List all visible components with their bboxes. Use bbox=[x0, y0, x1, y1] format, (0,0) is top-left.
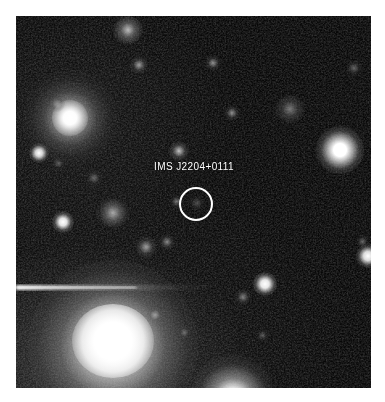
target-label: IMS J2204+0111 bbox=[154, 161, 234, 172]
target-circle-marker bbox=[179, 187, 213, 221]
science-image-frame: IMS J2204+0111 bbox=[16, 16, 371, 388]
finding-chart: IMS J2204+0111 bbox=[0, 0, 385, 402]
